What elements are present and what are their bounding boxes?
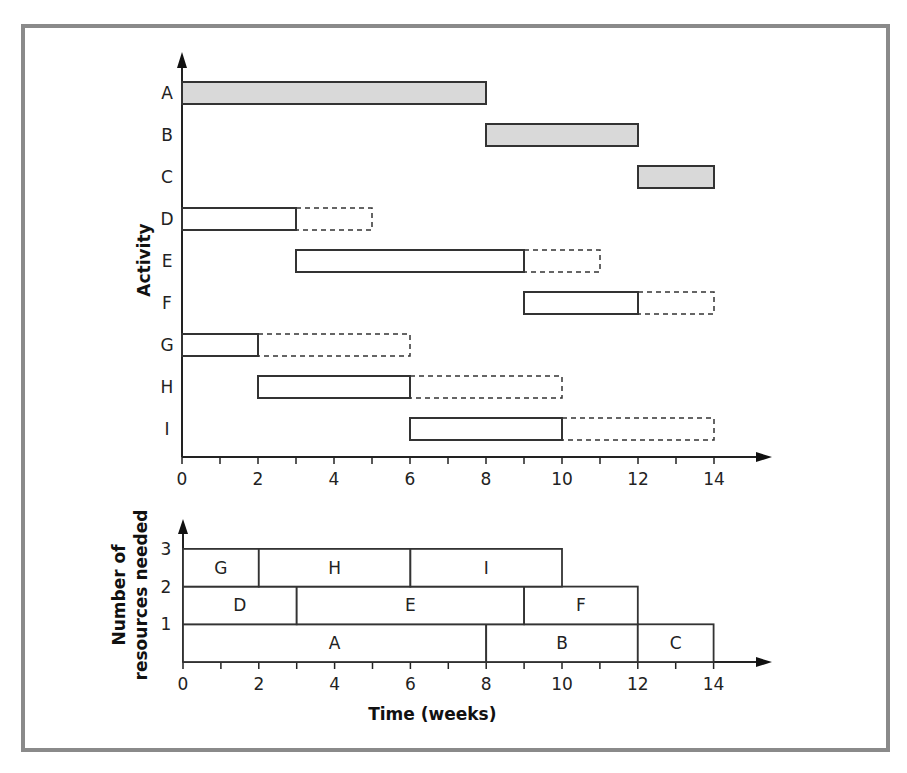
y-axis-arrow-icon bbox=[178, 519, 188, 534]
x-tick-label: 4 bbox=[329, 674, 340, 694]
y-axis-title: Number ofresources needed bbox=[109, 510, 151, 681]
x-tick-label: 14 bbox=[703, 674, 725, 694]
resource-block-label: D bbox=[233, 595, 246, 615]
resource-block-label: H bbox=[328, 558, 341, 578]
x-tick-label: 0 bbox=[178, 674, 189, 694]
resource-block-label: F bbox=[576, 595, 586, 615]
x-tick-label: 8 bbox=[481, 674, 492, 694]
resource-block-label: E bbox=[405, 595, 416, 615]
y-tick-label: 3 bbox=[161, 539, 172, 559]
x-tick-label: 10 bbox=[551, 674, 573, 694]
resource-histogram: 02468101214123Time (weeks)Number ofresou… bbox=[0, 0, 907, 773]
resource-block-label: C bbox=[670, 633, 682, 653]
resource-block-label: G bbox=[214, 558, 227, 578]
x-axis-title: Time (weeks) bbox=[368, 704, 496, 724]
x-tick-label: 6 bbox=[405, 674, 416, 694]
x-axis-arrow-icon bbox=[756, 657, 772, 667]
y-tick-label: 1 bbox=[161, 614, 172, 634]
resource-block-label: A bbox=[329, 633, 341, 653]
y-tick-label: 2 bbox=[161, 577, 172, 597]
resource-block-label: I bbox=[484, 558, 489, 578]
resource-block-label: B bbox=[556, 633, 568, 653]
x-tick-label: 2 bbox=[253, 674, 264, 694]
x-tick-label: 12 bbox=[627, 674, 649, 694]
